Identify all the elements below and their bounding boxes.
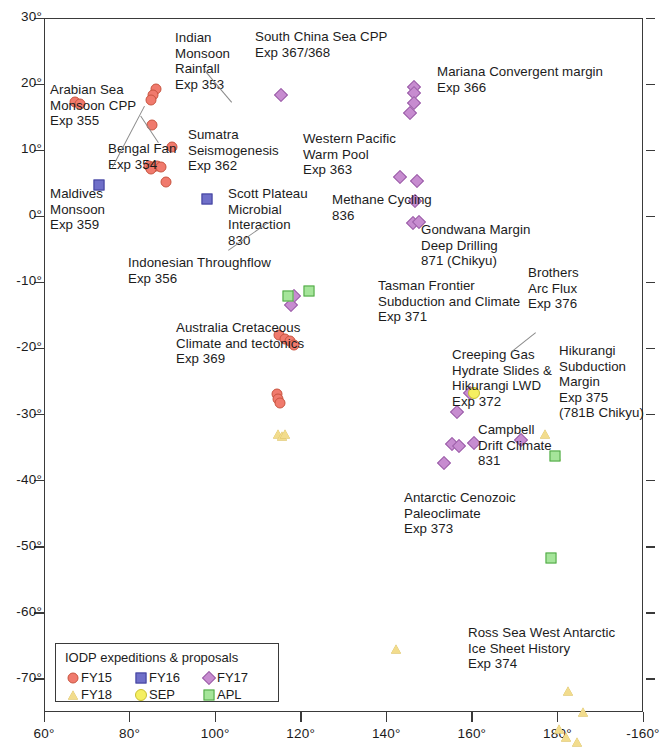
x-axis-label: 80°: [95, 726, 165, 741]
legend-title: IODP expeditions & proposals: [65, 650, 269, 666]
x-axis-label: 60°: [9, 726, 79, 741]
data-point-fy15[interactable]: [145, 94, 156, 105]
data-point-apl[interactable]: [282, 291, 293, 302]
legend-label-fy17: FY17: [217, 671, 248, 684]
y-axis-tick-right: [646, 348, 655, 349]
iodp-expedition-map: 30°20°10°0°-10°-20°-30°-40°-50°-60°-70°6…: [0, 0, 661, 749]
data-point-fy18[interactable]: [391, 645, 401, 654]
map-annotation-label: Western Pacific Warm Pool Exp 363: [303, 131, 396, 178]
map-annotation-label: Brothers Arc Flux Exp 376: [528, 265, 579, 312]
map-annotation-label: Tasman Frontier Subduction and Climate E…: [378, 278, 520, 325]
fy18-marker-icon: [65, 688, 81, 701]
y-axis-tick-right: [646, 18, 655, 19]
map-annotation-label: South China Sea CPP Exp 367/368: [255, 29, 388, 60]
legend-label-fy15: FY15: [81, 671, 112, 684]
legend-label-apl: APL: [217, 688, 242, 701]
y-axis-label: 20°: [0, 75, 42, 90]
y-axis-label: 0°: [0, 207, 42, 222]
y-axis-tick-right: [646, 414, 655, 415]
data-point-fy18[interactable]: [563, 686, 573, 695]
x-axis-label: 140°: [351, 726, 421, 741]
y-axis-tick-right: [646, 282, 655, 283]
map-annotation-label: Arabian Sea Monsoon CPP Exp 355: [50, 82, 136, 129]
data-point-fy18[interactable]: [280, 429, 290, 438]
map-annotation-label: Campbell Drift Climate 831: [478, 422, 552, 469]
fy17-marker-icon: [201, 671, 217, 684]
y-axis-label: -20°: [0, 339, 42, 354]
map-annotation-label: Maldives Monsoon Exp 359: [50, 186, 105, 233]
data-point-fy15[interactable]: [160, 176, 171, 187]
x-axis-label: 120°: [266, 726, 336, 741]
y-axis-label: -70°: [0, 670, 42, 685]
map-annotation-label: Hikurangi Subduction Margin Exp 375 (781…: [559, 343, 644, 421]
map-annotation-label: Australia Cretaceous Climate and tectoni…: [176, 320, 304, 367]
legend-item-fy15[interactable]: FY15: [65, 671, 133, 684]
y-axis-tick-right: [646, 150, 655, 151]
fy16-marker-icon: [133, 671, 149, 684]
legend-label-sep: SEP: [149, 688, 175, 701]
x-axis-tick: [557, 712, 558, 722]
y-axis-label: -40°: [0, 472, 42, 487]
y-axis-tick-right: [646, 216, 655, 217]
legend-row-2: FY18 SEP APL: [65, 686, 269, 703]
x-axis-label: 160°: [437, 726, 507, 741]
map-annotation-label: Methane Cycling 836: [332, 192, 432, 223]
legend-item-sep[interactable]: SEP: [133, 688, 201, 701]
fy15-marker-icon: [65, 671, 81, 684]
x-axis-tick: [471, 712, 472, 722]
x-axis-tick: [386, 712, 387, 722]
map-annotation-label: Indonesian Throughflow Exp 356: [128, 255, 271, 286]
map-annotation-label: Creeping Gas Hydrate Slides & Hikurangi …: [452, 347, 552, 409]
y-axis-label: 10°: [0, 141, 42, 156]
legend-label-fy16: FY16: [149, 671, 180, 684]
x-axis-tick: [44, 712, 45, 722]
x-axis-tick: [300, 712, 301, 722]
x-axis-tick: [129, 712, 130, 722]
legend-item-fy17[interactable]: FY17: [201, 671, 269, 684]
y-axis-tick-right: [646, 612, 655, 613]
map-annotation-label: Gondwana Margin Deep Drilling 871 (Chiky…: [421, 222, 530, 269]
y-axis-label: -10°: [0, 273, 42, 288]
y-axis-tick-right: [646, 480, 655, 481]
map-annotation-label: Scott Plateau Microbial Interaction 830: [228, 186, 308, 248]
data-point-fy18[interactable]: [561, 733, 571, 742]
data-point-fy18[interactable]: [572, 737, 582, 746]
legend-label-fy18: FY18: [81, 688, 112, 701]
legend-item-apl[interactable]: APL: [201, 688, 269, 701]
x-axis-label: 100°: [180, 726, 250, 741]
apl-marker-icon: [201, 688, 217, 701]
x-axis-label: -160°: [608, 726, 661, 741]
sep-marker-icon: [133, 688, 149, 701]
legend-row-1: FY15 FY16 FY17: [65, 669, 269, 686]
legend-box: IODP expeditions & proposals FY15 FY16 F…: [55, 643, 279, 702]
map-annotation-label: Antarctic Cenozoic Paleoclimate Exp 373: [404, 490, 516, 537]
y-axis-label: -60°: [0, 604, 42, 619]
x-axis-tick: [215, 712, 216, 722]
data-point-fy18[interactable]: [578, 708, 588, 717]
y-axis-label: 30°: [0, 9, 42, 24]
data-point-apl[interactable]: [304, 285, 315, 296]
y-axis-tick-right: [646, 678, 655, 679]
data-point-fy15[interactable]: [274, 398, 285, 409]
y-axis-label: -50°: [0, 538, 42, 553]
legend-item-fy16[interactable]: FY16: [133, 671, 201, 684]
y-axis-tick-right: [646, 546, 655, 547]
y-axis-tick-right: [646, 84, 655, 85]
map-annotation-label: Ross Sea West Antarctic Ice Sheet Histor…: [468, 625, 615, 672]
data-point-apl[interactable]: [546, 552, 557, 563]
y-axis-label: -30°: [0, 406, 42, 421]
x-axis-tick: [643, 712, 644, 722]
map-annotation-label: Indian Monsoon Rainfall Exp 353: [175, 30, 230, 92]
map-annotation-label: Mariana Convergent margin Exp 366: [437, 64, 603, 95]
legend-item-fy18[interactable]: FY18: [65, 688, 133, 701]
map-annotation-label: Sumatra Seismogenesis Exp 362: [188, 127, 279, 174]
data-point-fy16[interactable]: [201, 194, 212, 205]
